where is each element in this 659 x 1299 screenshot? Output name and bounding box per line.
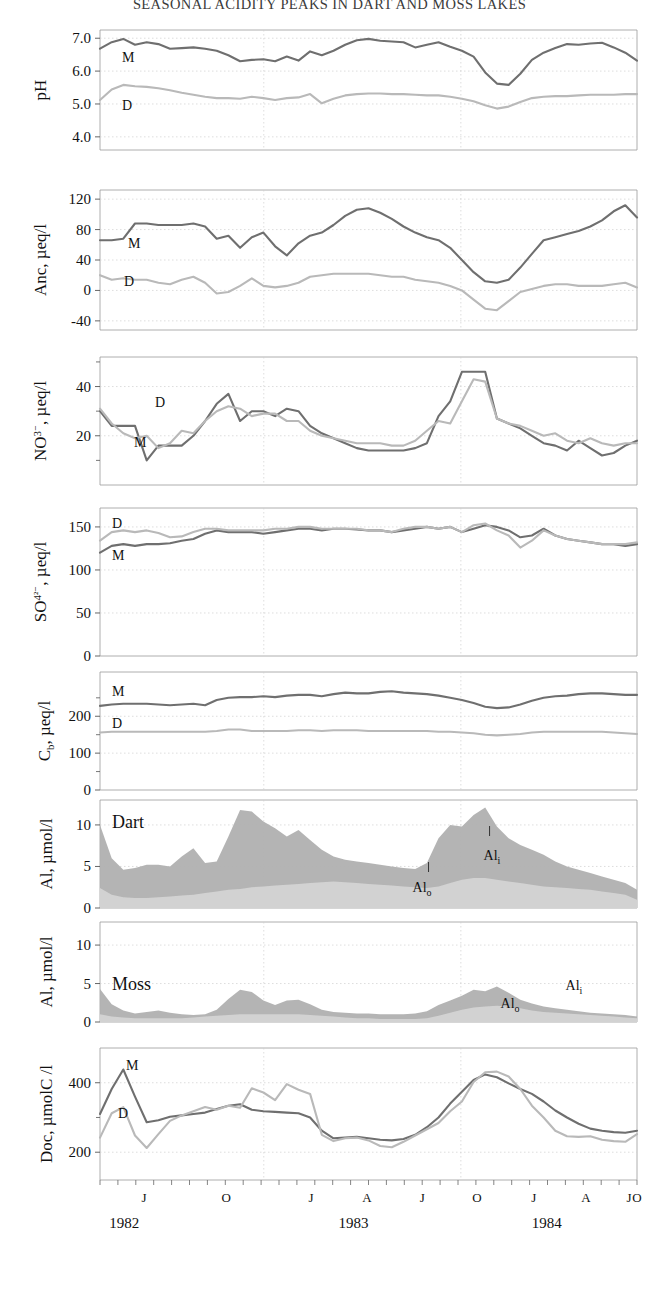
panel-doc: 400200MD [69,1048,638,1180]
y-tick-label: 5 [84,858,92,874]
y-axis-title: Anc, µeq/l [31,224,50,296]
panel-al-moss: 1050MossAliAlo [76,922,637,1030]
y-tick-label: 40 [76,379,91,395]
y-tick-label: 120 [69,191,92,207]
series-line-d [100,379,637,448]
y-axis-title: SO4²⁻, µeq/l [31,542,50,623]
y-tick-label: 7.0 [72,30,91,46]
x-axis: JOJAJOJAJO198219831984 [100,1180,642,1231]
x-month-label: J [309,1190,314,1205]
x-month-label: O [221,1190,230,1205]
series-label-moss: M [134,435,147,450]
x-month-label: J [626,1190,631,1205]
series-line-d [100,274,637,311]
series-line-d [100,85,637,109]
series-line-m [100,39,637,85]
y-tick-label: 10 [76,817,91,833]
series-label-dart: D [112,516,122,531]
series-label-dart: D [124,274,134,289]
panel-ph: 7.06.05.04.0MD [72,30,637,150]
series-label-dart: D [155,395,165,410]
panel-so4: 150100500DM [69,508,638,664]
panel-cb: 2001000MD [69,672,638,798]
y-tick-label: 200 [69,708,92,724]
y-tick-label: 40 [76,252,91,268]
y-tick-label: 100 [69,745,92,761]
y-tick-label: 4.0 [72,129,91,145]
series-line-m [100,205,637,283]
y-tick-label: 0 [84,1014,92,1030]
y-axis-title: Al, µmol/l [37,818,56,889]
multi-panel-timeseries-chart: 7.06.05.04.0MD12080400-40MD4020DM1501005… [0,0,659,1299]
y-axis-title: pH [31,80,50,101]
x-month-label: A [362,1190,372,1205]
y-tick-label: 20 [76,428,91,444]
y-tick-label: 10 [76,937,91,953]
y-tick-label: 5 [84,976,92,992]
y-tick-label: 0 [84,648,92,664]
y-axis-title: Doc, µmolC /l [37,1065,56,1163]
series-label-moss: M [122,50,135,65]
x-month-label: J [531,1190,536,1205]
y-axis-title: Al, µmol/l [37,936,56,1007]
y-axis-title: Cb, µeq/l [35,700,56,761]
series-label-moss: M [112,684,125,699]
x-month-label: J [142,1190,147,1205]
y-tick-label: 150 [69,519,92,535]
y-tick-label: 0 [84,782,92,798]
panel-anc: 12080400-40MD [69,190,638,330]
y-tick-label: 0 [84,282,92,298]
series-label-dart: D [118,1106,128,1121]
panel-name-label: Moss [112,974,151,994]
y-axis-title: NO3⁻, µeq/l [31,381,50,461]
y-tick-label: 200 [69,1144,92,1160]
panel-al-dart: 1050DartAliAlo [76,800,637,916]
y-tick-label: -40 [71,313,91,329]
y-tick-label: 400 [69,1075,92,1091]
figure-root: SEASONAL ACIDITY PEAKS IN DART AND MOSS … [0,0,659,1299]
series-line-m [100,525,637,553]
series-label-moss: M [112,548,125,563]
panel-name-label: Dart [112,812,144,832]
y-tick-label: 6.0 [72,63,91,79]
x-month-label: O [472,1190,481,1205]
x-year-label: 1982 [109,1215,139,1231]
x-month-label: A [581,1190,591,1205]
series-label-moss: M [128,236,141,251]
series-label-moss: M [126,1058,139,1073]
y-tick-label: 80 [76,222,91,238]
y-tick-label: 0 [84,900,92,916]
x-month-label: J [420,1190,425,1205]
annotation-al-inorganic: Ali [566,978,583,996]
series-label-dart: D [112,716,122,731]
figure-title: SEASONAL ACIDITY PEAKS IN DART AND MOSS … [0,0,659,9]
y-tick-label: 5.0 [72,96,91,112]
series-line-d [100,730,637,736]
x-year-label: 1984 [532,1215,563,1231]
x-month-label: O [632,1190,641,1205]
series-line-m [100,691,637,708]
y-tick-label: 50 [76,605,91,621]
panel-no3: 4020DM [76,357,637,485]
series-label-dart: D [122,98,132,113]
series-line-m [100,372,637,461]
x-year-label: 1983 [338,1215,368,1231]
y-tick-label: 100 [69,562,92,578]
series-line-m [100,1070,637,1141]
